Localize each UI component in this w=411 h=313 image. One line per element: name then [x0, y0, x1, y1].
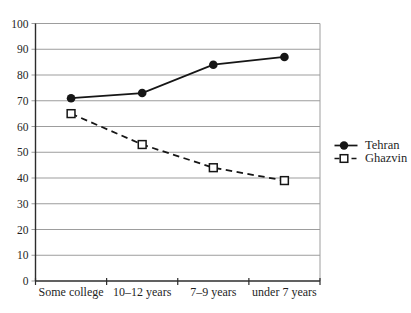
- open-square-marker: [67, 110, 75, 118]
- filled-circle-marker: [280, 53, 289, 62]
- open-square-marker: [138, 141, 146, 149]
- x-axis-tick-label: under 7 years: [252, 285, 317, 299]
- legend-label-ghazvin: Ghazvin: [365, 152, 407, 165]
- filled-circle-solid-line-icon: [334, 140, 358, 151]
- y-axis-tick-label: 60: [17, 121, 29, 133]
- y-axis-tick-label: 70: [17, 95, 29, 107]
- y-axis-tick-label: 30: [17, 198, 29, 210]
- y-axis-tick-label: 20: [17, 224, 29, 236]
- filled-circle-marker: [138, 89, 147, 98]
- open-square-marker: [281, 177, 289, 185]
- y-axis-tick-label: 50: [17, 146, 29, 158]
- line-chart-figure: 0102030405060708090100Some college10–12 …: [0, 0, 411, 313]
- x-axis-tick-label: Some college: [39, 285, 104, 299]
- open-square-dashed-line-icon: [334, 153, 358, 164]
- series-line-tehran: [71, 57, 284, 98]
- y-axis-tick-label: 100: [11, 18, 29, 30]
- x-axis-tick-label: 10–12 years: [113, 285, 172, 299]
- legend: Tehran Ghazvin: [334, 139, 407, 165]
- y-axis-tick-label: 40: [17, 172, 29, 184]
- y-axis-tick-label: 80: [17, 69, 29, 81]
- y-axis-tick-label: 90: [17, 43, 29, 55]
- filled-circle-marker: [67, 94, 76, 103]
- y-axis-tick-label: 0: [23, 275, 29, 287]
- legend-item-ghazvin: Ghazvin: [334, 152, 407, 165]
- filled-circle-marker: [209, 60, 218, 69]
- x-axis-tick-label: 7–9 years: [190, 285, 237, 299]
- open-square-marker: [209, 164, 217, 172]
- y-axis-tick-label: 10: [17, 249, 29, 261]
- series-line-ghazvin: [71, 114, 284, 181]
